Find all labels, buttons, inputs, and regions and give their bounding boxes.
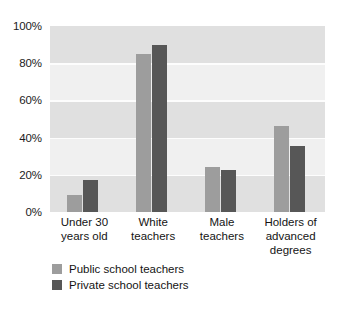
legend-item-private: Private school teachers xyxy=(52,277,189,292)
x-axis-label-3: Holders of advanced degrees xyxy=(256,215,325,257)
x-axis-label-line: advanced xyxy=(257,229,324,243)
bar-chart: 100% 80% 60% 40% 20% 0% xyxy=(0,0,339,311)
x-axis-labels: Under 30 years old White teachers Male t… xyxy=(50,215,325,257)
legend: Public school teachers Private school te… xyxy=(52,261,189,293)
bar-public-2 xyxy=(205,167,220,212)
x-axis-label-line: degrees xyxy=(257,243,324,257)
y-axis-tick: 60% xyxy=(19,94,42,106)
x-axis-label-line: teachers xyxy=(120,229,187,243)
bar-public-0 xyxy=(67,195,82,212)
y-axis-tick: 40% xyxy=(19,132,42,144)
x-axis-label-0: Under 30 years old xyxy=(50,215,119,257)
legend-label-public: Public school teachers xyxy=(69,263,184,275)
x-axis-label-2: Male teachers xyxy=(188,215,257,257)
bar-private-3 xyxy=(290,146,305,212)
x-axis-label-line: Under 30 xyxy=(51,215,118,229)
bar-groups xyxy=(50,26,325,212)
legend-swatch-private xyxy=(52,280,62,290)
bar-group xyxy=(188,26,257,212)
bar-public-1 xyxy=(136,54,151,212)
y-axis-tick: 0% xyxy=(26,206,42,218)
bar-private-2 xyxy=(221,170,236,212)
legend-swatch-public xyxy=(52,264,62,274)
x-axis-label-line: White xyxy=(120,215,187,229)
legend-item-public: Public school teachers xyxy=(52,261,189,276)
y-axis-tick: 80% xyxy=(19,57,42,69)
y-axis: 100% 80% 60% 40% 20% 0% xyxy=(0,26,46,212)
bar-private-0 xyxy=(83,180,98,212)
y-axis-tick: 100% xyxy=(13,20,42,32)
bar-group xyxy=(256,26,325,212)
bar-public-3 xyxy=(274,126,289,212)
x-axis-label-line: years old xyxy=(51,229,118,243)
plot-area xyxy=(50,26,325,212)
x-axis-label-line: Holders of xyxy=(257,215,324,229)
y-axis-tick: 20% xyxy=(19,169,42,181)
bar-group xyxy=(119,26,188,212)
bar-group xyxy=(50,26,119,212)
x-axis-label-line: teachers xyxy=(189,229,256,243)
legend-label-private: Private school teachers xyxy=(69,279,189,291)
x-axis-label-1: White teachers xyxy=(119,215,188,257)
bar-private-1 xyxy=(152,45,167,212)
x-axis-label-line: Male xyxy=(189,215,256,229)
